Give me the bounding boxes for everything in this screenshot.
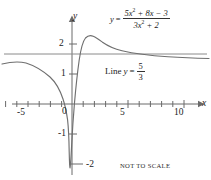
asymptote-prefix: Line: [105, 67, 122, 76]
asymptote-numerator: 5: [137, 62, 145, 72]
graph-figure: -5 0 5 10 x 2 1 -1 -2 y y = 5x2 + 8x − 3…: [0, 0, 211, 180]
y-tick-label-2: 2: [59, 39, 64, 49]
equation-lhs: y: [110, 15, 114, 24]
not-to-scale-note: NOT TO SCALE: [120, 163, 170, 170]
equation-denominator: 3x2 + 2: [132, 19, 161, 30]
equation-fraction: 5x2 + 8x − 3 3x2 + 2: [123, 8, 170, 30]
plot-canvas: [0, 0, 211, 180]
x-tick-label-0: 0: [62, 107, 67, 117]
y-tick-label-1: 1: [61, 69, 66, 79]
equation-annotation: y = 5x2 + 8x − 3 3x2 + 2: [110, 8, 170, 30]
x-axis-label: x: [202, 99, 206, 109]
asymptote-equals: =: [130, 67, 135, 76]
x-tick-label-10: 10: [174, 108, 184, 118]
y-axis: [69, 16, 75, 176]
asymptote-denominator: 3: [137, 72, 145, 82]
asymptote-annotation: Line y = 5 3: [105, 62, 145, 82]
equation-equals: =: [116, 15, 121, 24]
x-tick-label-neg5: -5: [17, 108, 25, 118]
asymptote-fraction: 5 3: [137, 62, 145, 82]
asymptote-lhs: y: [124, 67, 128, 76]
y-axis-label: y: [73, 12, 77, 22]
equation-numerator: 5x2 + 8x − 3: [123, 8, 170, 19]
y-tick-label-neg1: -1: [58, 129, 66, 139]
y-tick-label-neg2: -2: [86, 160, 94, 170]
x-tick-label-5: 5: [120, 108, 125, 118]
